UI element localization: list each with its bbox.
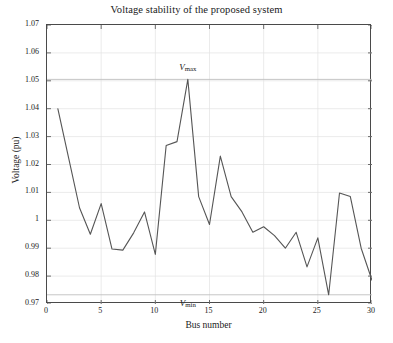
chart-title: Voltage stability of the proposed system	[0, 4, 393, 15]
x-tick-label: 10	[150, 306, 158, 315]
y-tick-label: 0.99	[25, 242, 39, 251]
x-axis-tick-labels: 051015202530	[46, 306, 371, 320]
x-tick-label: 25	[313, 306, 321, 315]
y-tick-label: 1.05	[25, 75, 39, 84]
y-tick-label: 0.98	[25, 270, 39, 279]
series-line-0	[58, 79, 372, 294]
x-tick-label: 20	[259, 306, 267, 315]
x-tick-label: 5	[98, 306, 102, 315]
y-tick-label: 1.04	[25, 103, 39, 112]
x-axis-label: Bus number	[46, 320, 371, 330]
chart-figure: Voltage stability of the proposed system…	[0, 0, 393, 343]
v-max-line-label: Vmax	[179, 62, 196, 72]
data-series-line	[58, 79, 372, 294]
y-tick-label: 0.97	[25, 298, 39, 307]
plot-svg	[47, 25, 372, 304]
plot-area: VmaxVmin	[46, 24, 371, 303]
y-tick-label: 1	[35, 214, 39, 223]
x-tick-label: 0	[44, 306, 48, 315]
y-tick-label: 1.03	[25, 131, 39, 140]
gridlines	[47, 25, 372, 304]
x-tick-label: 30	[367, 306, 375, 315]
y-tick-label: 1.07	[25, 19, 39, 28]
x-tick-label: 15	[205, 306, 213, 315]
y-tick-label: 1.06	[25, 47, 39, 56]
v-max-line-label-subscript: max	[185, 66, 197, 73]
y-tick-label: 1.01	[25, 186, 39, 195]
y-axis-tick-labels: 0.970.980.9911.011.021.031.041.051.061.0…	[0, 24, 43, 303]
y-tick-label: 1.02	[25, 159, 39, 168]
